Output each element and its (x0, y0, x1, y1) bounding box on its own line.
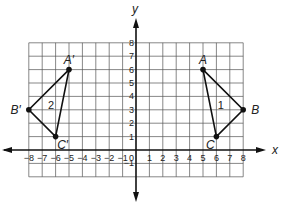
x-tick-label: 1 (147, 153, 152, 163)
x-tick-label: 2 (160, 153, 165, 163)
x-tick-label: 7 (227, 153, 232, 163)
origin-label: 0 (129, 153, 134, 163)
x-tick-label: 5 (200, 153, 205, 163)
x-tick-label: −6 (50, 153, 60, 163)
vertex-label: C (206, 138, 215, 152)
coordinate-plane: xy −8−7−6−5−4−3−2−11234567887654321−10 1… (0, 0, 288, 204)
vertex-label: A (198, 53, 207, 67)
y-tick-label: 5 (129, 78, 134, 88)
x-tick-label: 3 (174, 153, 179, 163)
x-axis-label: x (271, 143, 279, 157)
y-tick-label: 6 (129, 65, 134, 75)
x-tick-label: 4 (187, 153, 192, 163)
y-tick-label: 7 (129, 51, 134, 61)
figure-number-label: 2 (48, 99, 54, 111)
vertex-point (66, 67, 72, 73)
x-tick-label: 8 (241, 153, 246, 163)
x-tick-label: −2 (104, 153, 114, 163)
vertex-label: C′ (57, 138, 69, 152)
y-tick-label: 3 (129, 105, 134, 115)
vertex-label: B′ (11, 103, 22, 117)
x-tick-label: −4 (77, 153, 87, 163)
x-axis-left-arrow-icon (2, 147, 12, 153)
vertex-point (240, 107, 246, 113)
y-tick-label: 2 (129, 118, 134, 128)
x-tick-label: −5 (64, 153, 74, 163)
figure-number-label: 1 (218, 99, 224, 111)
x-tick-label: 6 (214, 153, 219, 163)
vertex-point (200, 67, 206, 73)
vertex-label: B (251, 103, 259, 117)
axes: xy (2, 2, 279, 202)
x-axis-right-arrow-icon (256, 147, 266, 153)
x-tick-label: −8 (24, 153, 34, 163)
y-axis-label: y (131, 2, 139, 16)
y-axis-up-arrow-icon (133, 18, 139, 28)
x-tick-label: −3 (91, 153, 101, 163)
vertex-label: A′ (63, 53, 75, 67)
vertex-point (26, 107, 32, 113)
y-tick-label: 4 (129, 91, 134, 101)
x-tick-label: −7 (37, 153, 47, 163)
y-tick-label: 1 (129, 132, 134, 142)
y-tick-label: 8 (129, 38, 134, 48)
y-axis-down-arrow-icon (133, 192, 139, 202)
